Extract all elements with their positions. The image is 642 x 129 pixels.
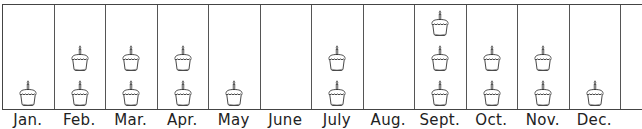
cupcake-icon [172,80,194,107]
cupcake-stack [312,45,363,107]
month-label: June [260,111,312,129]
cupcake-icon [120,45,142,72]
cupcake-icon [69,45,91,72]
month-column [518,5,570,109]
month-column [158,5,210,109]
month-label: Apr. [157,111,209,129]
cupcake-stack [3,80,54,107]
cupcake-icon [172,45,194,72]
cupcake-stack [55,45,106,107]
month-label: Feb. [54,111,106,129]
month-labels: Jan.Feb.Mar.Apr.MayJuneJulyAug.Sept.Oct.… [2,111,642,129]
month-label: Nov. [517,111,569,129]
month-label: Aug. [363,111,415,129]
month-label: Dec. [569,111,621,129]
month-label: July [311,111,363,129]
cupcake-stack [158,45,209,107]
month-column [261,5,313,109]
cupcake-stack [518,45,569,107]
cupcake-stack [209,80,260,107]
cupcake-stack [415,10,466,107]
month-column [106,5,158,109]
month-label: Sept. [414,111,466,129]
month-label: Mar. [105,111,157,129]
cupcake-icon [120,80,142,107]
cupcake-icon [532,45,554,72]
cupcake-icon [326,80,348,107]
cupcake-stack [467,45,518,107]
month-column [209,5,261,109]
cupcake-icon [584,80,606,107]
month-column [312,5,364,109]
month-column [467,5,519,109]
cupcake-icon [429,45,451,72]
cupcake-icon [429,10,451,37]
month-label: May [208,111,260,129]
cupcake-icon [326,45,348,72]
month-label: Jan. [2,111,54,129]
month-column [570,5,622,109]
cupcake-icon [223,80,245,107]
cupcake-icon [17,80,39,107]
pictograph-grid [2,4,642,110]
cupcake-stack [570,80,621,107]
month-column [415,5,467,109]
month-label: Oct. [466,111,518,129]
cupcake-icon [429,80,451,107]
month-column [364,5,416,109]
cupcake-icon [481,80,503,107]
cupcake-icon [481,45,503,72]
cupcake-stack [106,45,157,107]
month-column [3,5,55,109]
month-column [55,5,107,109]
cupcake-icon [69,80,91,107]
cupcake-icon [532,80,554,107]
